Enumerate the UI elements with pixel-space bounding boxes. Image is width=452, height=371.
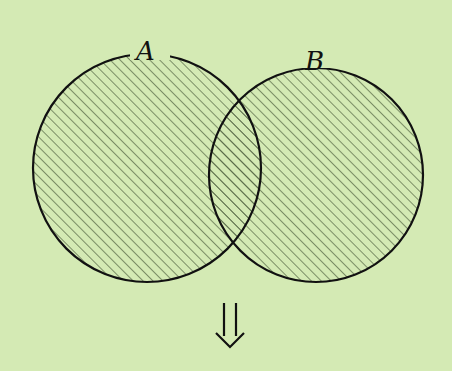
double-down-arrow-icon (216, 303, 244, 347)
label-b: B (304, 46, 324, 76)
label-a: A (134, 36, 155, 66)
venn-diagram: A B (0, 0, 452, 371)
